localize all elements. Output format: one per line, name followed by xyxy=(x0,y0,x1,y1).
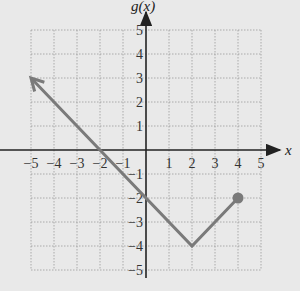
y-tick-label: −4 xyxy=(128,239,143,254)
endpoint-dot xyxy=(233,193,244,204)
x-tick-label: 4 xyxy=(235,156,242,171)
y-tick-label: 5 xyxy=(136,23,143,38)
x-tick-label: 1 xyxy=(166,156,173,171)
y-axis-label: g(x) xyxy=(131,0,155,15)
x-tick-label: −3 xyxy=(70,156,85,171)
x-axis-label: x xyxy=(284,142,292,158)
y-tick-label: −5 xyxy=(128,263,143,278)
y-tick-label: 3 xyxy=(136,71,143,86)
y-tick-label: 2 xyxy=(136,95,143,110)
graph: x g(x) −5−4−3−2−11234554321−1−2−3−4−5 xyxy=(0,0,300,291)
x-tick-label: 3 xyxy=(212,156,219,171)
x-tick-label: −2 xyxy=(93,156,108,171)
x-tick-label: −4 xyxy=(47,156,62,171)
y-tick-label: 4 xyxy=(136,47,143,62)
x-tick-label: −5 xyxy=(24,156,39,171)
y-tick-label: 1 xyxy=(136,119,143,134)
x-tick-label: 5 xyxy=(258,156,265,171)
x-tick-label: 2 xyxy=(189,156,196,171)
y-tick-label: −3 xyxy=(128,215,143,230)
